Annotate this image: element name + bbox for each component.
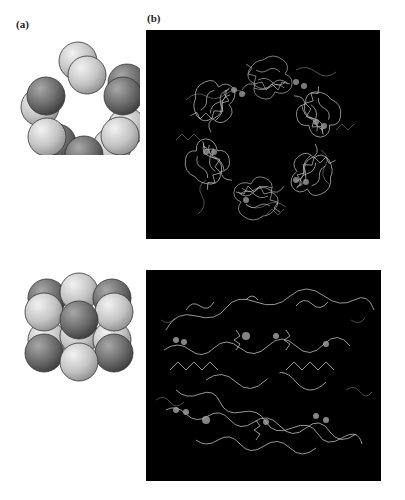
stacked-diagram-side-view	[22, 270, 137, 385]
protein-structure-top-view	[146, 30, 380, 239]
ring-diagram-top-view	[20, 25, 140, 155]
protein-structure-side-view	[146, 270, 381, 481]
panel-b-label: (b)	[147, 12, 160, 24]
